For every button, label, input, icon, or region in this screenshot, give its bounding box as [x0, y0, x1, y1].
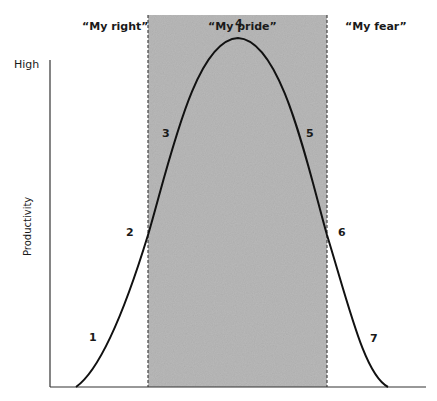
- marker-1: 1: [89, 331, 97, 344]
- marker-6: 6: [338, 226, 346, 239]
- zone-label-my-right: “My right”: [82, 20, 149, 33]
- marker-7: 7: [370, 332, 378, 345]
- marker-5: 5: [306, 127, 314, 140]
- marker-3: 3: [162, 127, 170, 140]
- marker-4: 4: [235, 17, 243, 30]
- pride-zone-shade: [148, 15, 327, 387]
- zone-label-my-fear: “My fear”: [345, 20, 407, 33]
- y-axis-title: Productivity: [22, 197, 33, 256]
- y-axis-high-label: High: [14, 58, 39, 71]
- marker-2: 2: [126, 226, 134, 239]
